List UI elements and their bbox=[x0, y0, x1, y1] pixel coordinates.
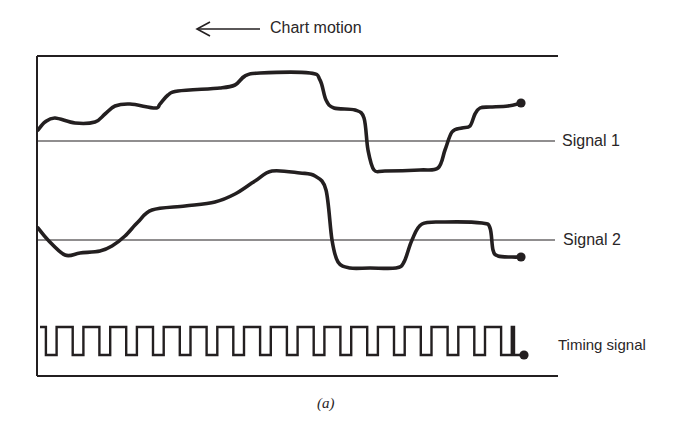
signal2-trace bbox=[38, 171, 521, 269]
timing-trace bbox=[40, 327, 522, 355]
strip-chart-svg bbox=[0, 0, 698, 434]
strip-chart-figure: Chart motion Signal 1 Signal 2 Timing si… bbox=[0, 0, 698, 434]
signal1-label: Signal 1 bbox=[562, 132, 620, 150]
timing-pen-marker bbox=[519, 350, 528, 359]
timing-square-wave bbox=[40, 327, 522, 355]
signal-traces bbox=[38, 72, 521, 268]
chart-motion-label: Chart motion bbox=[270, 19, 362, 37]
timing-signal-label: Timing signal bbox=[558, 336, 646, 353]
signal1-pen-marker bbox=[516, 98, 525, 107]
chart-motion-arrow-icon bbox=[197, 22, 260, 36]
signal2-label: Signal 2 bbox=[563, 231, 621, 249]
pen-markers bbox=[516, 98, 528, 359]
signal2-pen-marker bbox=[516, 252, 525, 261]
figure-caption: (a) bbox=[317, 395, 335, 412]
signal1-trace bbox=[38, 72, 521, 172]
